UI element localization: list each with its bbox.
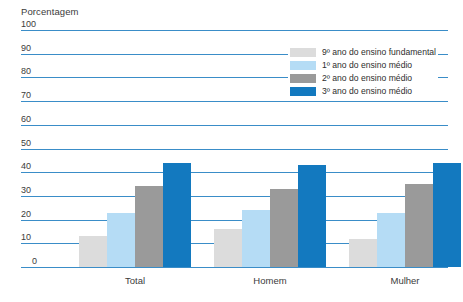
legend-label: 9º ano do ensino fundamental xyxy=(322,47,436,58)
legend-label: 3º ano do ensino médio xyxy=(322,86,412,97)
gridline-0 xyxy=(21,267,448,268)
legend-item: 9º ano do ensino fundamental xyxy=(290,47,436,58)
bar xyxy=(405,184,433,267)
bar xyxy=(163,163,191,267)
x-tick-label: Mulher xyxy=(349,275,461,286)
bar xyxy=(214,229,242,267)
bar xyxy=(377,213,405,268)
legend-item: 2º ano do ensino médio xyxy=(290,73,436,84)
legend-swatch xyxy=(290,74,316,83)
chart-legend: 9º ano do ensino fundamental1º ano do en… xyxy=(288,45,438,100)
legend-swatch xyxy=(290,61,316,70)
legend-label: 1º ano do ensino médio xyxy=(322,60,412,71)
bar xyxy=(270,189,298,267)
legend-item: 3º ano do ensino médio xyxy=(290,86,436,97)
legend-swatch xyxy=(290,48,316,57)
legend-item: 1º ano do ensino médio xyxy=(290,60,436,71)
bar xyxy=(135,186,163,267)
y-axis-title: Porcentagem xyxy=(21,6,79,17)
x-tick-label: Homem xyxy=(214,275,326,286)
x-tick-label: Total xyxy=(79,275,191,286)
bar xyxy=(107,213,135,268)
bar xyxy=(79,236,107,267)
bar-chart: Porcentagem 1009080706050403020100 Total… xyxy=(0,0,463,302)
bar xyxy=(242,210,270,267)
legend-label: 2º ano do ensino médio xyxy=(322,73,412,84)
bar-group-total xyxy=(79,30,197,267)
bar xyxy=(349,239,377,267)
bar xyxy=(298,165,326,267)
bar xyxy=(433,163,461,267)
y-tick-label: 100 xyxy=(21,19,36,29)
legend-swatch xyxy=(290,87,316,96)
